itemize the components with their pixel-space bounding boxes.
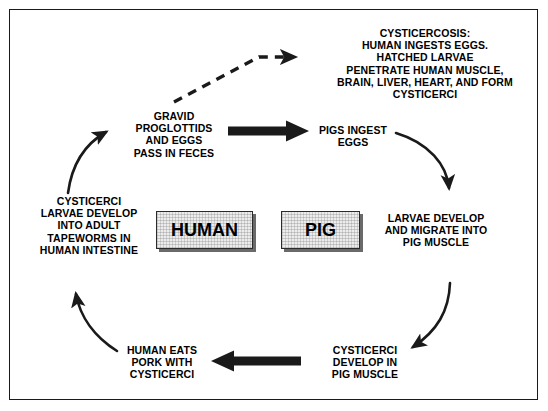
node-gravid-proglottids: GRAVID PROGLOTTIDS AND EGGS PASS IN FECE…	[120, 110, 228, 159]
node-pigs-ingest-eggs: PIGS INGEST EGGS	[308, 124, 398, 148]
diagram-canvas: CYSTICERCOSIS: HUMAN INGESTS EGGS. HATCH…	[0, 0, 548, 411]
box-pig: PIG	[281, 211, 360, 249]
box-human-label: HUMAN	[171, 220, 238, 241]
node-larvae-migrate: LARVAE DEVELOP AND MIGRATE INTO PIG MUSC…	[376, 212, 496, 249]
box-human: HUMAN	[156, 211, 253, 249]
box-pig-label: PIG	[305, 220, 336, 241]
node-cysticercosis: CYSTICERCOSIS: HUMAN INGESTS EGGS. HATCH…	[318, 27, 532, 100]
node-human-eats-pork: HUMAN EATS PORK WITH CYSTICERCI	[113, 344, 211, 381]
node-cysticerci-pig-muscle: CYSTICERCI DEVELOP IN PIG MUSCLE	[316, 344, 414, 381]
node-cysticerci-tapeworms: CYSTICERCI LARVAE DEVELOP INTO ADULT TAP…	[24, 195, 154, 256]
